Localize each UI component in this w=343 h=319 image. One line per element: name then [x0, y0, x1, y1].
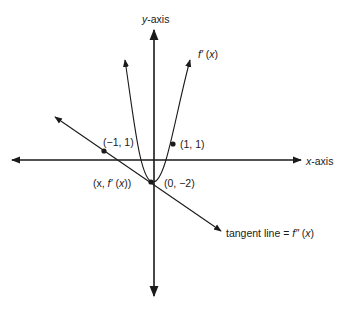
point-label-x-fprime: (x, f′ (x)) — [93, 177, 131, 189]
parabola-curve — [125, 60, 190, 182]
x-axis-label: x-axis — [306, 155, 333, 167]
curve-label-arg: x — [209, 48, 214, 60]
tangent-line — [55, 117, 221, 231]
point-label-1-1: (1, 1) — [180, 138, 205, 150]
y-axis-label-rest: -axis — [147, 13, 169, 25]
tangent-label-text: tangent line = — [226, 227, 292, 239]
point-label-arg: x — [119, 177, 124, 189]
point-label-0-neg2: (0, −2) — [164, 177, 195, 189]
point-1-1 — [170, 141, 175, 146]
y-axis-label: y-axis — [142, 13, 169, 25]
curve-label-fn: f′ — [198, 48, 203, 60]
point-label-suffix: ) — [128, 177, 132, 189]
point-tangent — [148, 179, 153, 184]
tangent-label: tangent line = f″ (x) — [226, 227, 314, 239]
point-label-fn: f′ — [108, 177, 113, 189]
point-label-neg1-1: (−1, 1) — [103, 136, 134, 148]
diagram-canvas — [0, 0, 343, 319]
tangent-label-arg: x — [305, 227, 310, 239]
curve-label: f′ (x) — [198, 48, 218, 60]
x-axis-label-rest: -axis — [311, 155, 333, 167]
point-label-prefix: (x, — [93, 177, 108, 189]
point-neg1-1 — [101, 148, 106, 153]
tangent-label-fn: f″ — [292, 227, 299, 239]
